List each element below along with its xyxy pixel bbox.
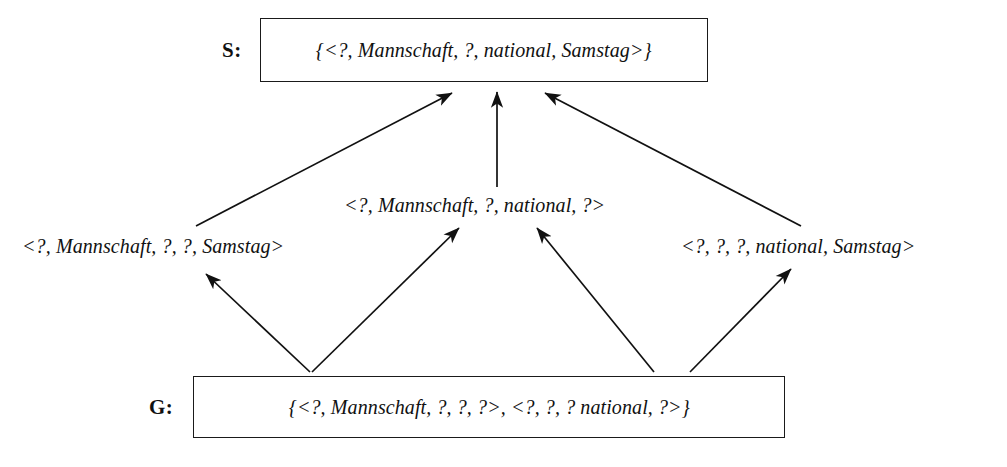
hypothesis-middle: <?, Mannschaft, ?, national, ?> [344,194,605,217]
arrow-g-to-hyp-middle-left [312,228,459,372]
specific-boundary-row: S: {<?, Mannschaft, ?, national, Samstag… [222,18,708,82]
hypothesis-right: <?, ?, ?, national, Samstag> [681,235,915,258]
specific-boundary-box: {<?, Mannschaft, ?, national, Samstag>} [260,18,708,82]
version-space-diagram: S: {<?, Mannschaft, ?, national, Samstag… [0,0,1007,467]
arrow-g-to-hyp-middle-right [537,228,654,372]
arrow-g-to-hyp-left [206,274,310,372]
general-boundary-box: {<?, Mannschaft, ?, ?, ?>, <?, ?, ? nati… [193,376,785,438]
general-boundary-text: {<?, Mannschaft, ?, ?, ?>, <?, ?, ? nati… [289,396,690,419]
specific-boundary-text: {<?, Mannschaft, ?, national, Samstag>} [316,39,652,62]
general-boundary-row: G: {<?, Mannschaft, ?, ?, ?>, <?, ?, ? n… [149,376,785,438]
specific-boundary-label: S: [222,38,242,63]
hypothesis-left: <?, Mannschaft, ?, ?, Samstag> [22,235,284,258]
arrow-g-to-hyp-right [690,269,791,372]
general-boundary-label: G: [149,395,173,420]
